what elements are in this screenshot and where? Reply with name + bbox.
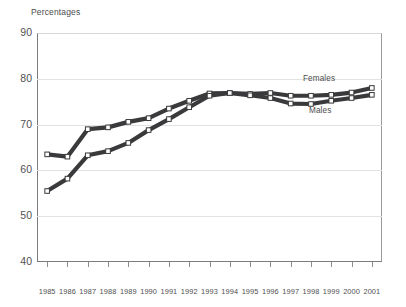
x-axis-tick-mark [169,262,170,267]
series-label-females: Females [303,74,335,83]
y-axis-title: Percentages [31,7,80,17]
x-axis-tick-label: 2000 [343,287,360,296]
y-axis-tick-label: 70 [2,118,32,130]
x-axis-tick-label: 1996 [262,287,279,296]
plot-area-frame [37,33,382,262]
x-axis-tick-mark [128,262,129,267]
x-axis-tick-label: 1987 [79,287,96,296]
x-axis-tick-label: 2001 [363,287,380,296]
x-axis-tick-label: 1997 [282,287,299,296]
x-axis-tick-mark [250,262,251,267]
x-axis-tick-label: 1994 [221,287,238,296]
x-axis-tick-mark [230,262,231,267]
series-label-males: Males [309,106,331,115]
chart-container: Percentages 908070605040 198519861987198… [0,0,406,307]
gridline [37,216,382,217]
x-axis-tick-mark [352,262,353,267]
x-axis-tick-mark [189,262,190,267]
x-axis-tick-mark [67,262,68,267]
x-axis-tick-mark [88,262,89,267]
x-axis-tick-mark [291,262,292,267]
x-axis-tick-mark [149,262,150,267]
x-axis-tick-mark [108,262,109,267]
y-axis-tick-label: 40 [2,255,32,267]
gridline [37,170,382,171]
y-axis-tick-label: 80 [2,72,32,84]
x-axis-tick-mark [47,262,48,267]
x-axis-tick-label: 1985 [39,287,56,296]
x-axis-tick-mark [372,262,373,267]
y-axis-tick-label: 50 [2,209,32,221]
x-axis-tick-label: 1999 [323,287,340,296]
x-axis-tick-label: 1988 [100,287,117,296]
x-axis-tick-label: 1992 [181,287,198,296]
x-axis-tick-mark [311,262,312,267]
y-axis-tick-label: 90 [2,26,32,38]
x-axis-tick-mark [270,262,271,267]
x-axis-tick-label: 1993 [201,287,218,296]
x-axis-tick-mark [210,262,211,267]
x-axis-tick-label: 1998 [303,287,320,296]
y-axis-tick-label: 60 [2,163,32,175]
x-axis-tick-label: 1995 [242,287,259,296]
x-axis-tick-label: 1989 [120,287,137,296]
x-axis-tick-mark [331,262,332,267]
gridline [37,125,382,126]
x-axis-tick-label: 1991 [160,287,177,296]
x-axis-tick-label: 1990 [140,287,157,296]
x-axis-tick-label: 1986 [59,287,76,296]
